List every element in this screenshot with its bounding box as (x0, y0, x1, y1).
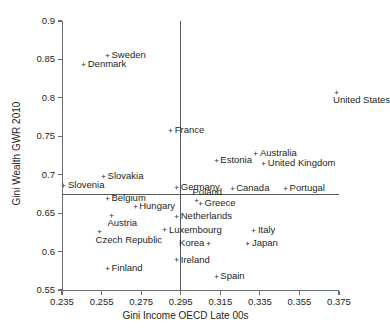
data-point-marker-icon (283, 186, 288, 191)
data-point-marker-icon (105, 266, 110, 271)
data-point-marker-icon (198, 201, 203, 206)
data-point-label: Poland (193, 187, 223, 197)
data-point-label: Hungary (139, 201, 175, 211)
data-point-label: Netherlands (181, 211, 232, 221)
data-point-marker-icon (168, 128, 173, 133)
y-tick-mark (58, 251, 62, 252)
y-tick-mark (58, 136, 62, 137)
reference-line-vertical (180, 21, 181, 291)
y-tick-mark (58, 20, 62, 21)
data-point-marker-icon (174, 257, 179, 262)
x-tick-mark (220, 291, 221, 295)
data-point-marker-icon (133, 204, 138, 209)
data-point-label: Canada (236, 183, 269, 193)
y-tick-mark (58, 97, 62, 98)
x-tick-mark (180, 291, 181, 295)
y-axis-title: Gini Wealth GWR 2010 (11, 74, 22, 234)
y-axis-line (62, 21, 63, 291)
data-point-marker-icon (245, 241, 250, 246)
data-point-label: Ireland (181, 255, 210, 265)
x-tick-mark (101, 291, 102, 295)
y-tick-label: 0.55 (15, 285, 55, 295)
data-point-label: Greece (205, 198, 236, 208)
data-point-marker-icon (253, 151, 258, 156)
data-point-label: Estonia (220, 155, 252, 165)
data-point-label: Denmark (88, 59, 127, 69)
x-tick-mark (299, 291, 300, 295)
x-tick-mark (259, 291, 260, 295)
x-tick-label: 0.335 (240, 296, 280, 307)
data-point-marker-icon (261, 161, 266, 166)
data-point-marker-icon (81, 62, 86, 67)
x-tick-label: 0.315 (200, 296, 240, 307)
data-point-label: Italy (258, 225, 275, 235)
data-point-label: Luxembourg (169, 225, 222, 235)
data-point-marker-icon (214, 274, 219, 279)
data-point-label: Portugal (290, 183, 325, 193)
data-point-label: Czech Republic (96, 235, 163, 245)
x-tick-mark (61, 291, 62, 295)
x-tick-label: 0.235 (42, 296, 82, 307)
data-point-label: Slovakia (108, 171, 144, 181)
data-point-marker-icon (230, 186, 235, 191)
x-tick-mark (141, 291, 142, 295)
data-point-label: France (175, 125, 205, 135)
data-point-label: United States (333, 95, 390, 105)
data-point-marker-icon (251, 228, 256, 233)
data-point-marker-icon (206, 241, 211, 246)
data-point-marker-icon (174, 185, 179, 190)
x-tick-label: 0.255 (82, 296, 122, 307)
data-point-marker-icon (162, 227, 167, 232)
data-point-marker-icon (174, 214, 179, 219)
x-tick-mark (338, 291, 339, 295)
y-tick-mark (58, 59, 62, 60)
x-tick-label: 0.275 (121, 296, 161, 307)
x-axis-line (62, 290, 339, 291)
x-tick-label: 0.295 (161, 296, 201, 307)
data-point-label: Korea (179, 238, 204, 248)
x-axis-title: Gini Income OECD Late 00s (0, 310, 371, 321)
data-point-label: Japan (252, 238, 278, 248)
data-point-marker-icon (105, 196, 110, 201)
x-tick-label: 0.355 (279, 296, 319, 307)
x-tick-label: 0.375 (319, 296, 359, 307)
data-point-label: Finland (112, 263, 143, 273)
data-point-label: Slovenia (68, 180, 104, 190)
data-point-marker-icon (61, 183, 66, 188)
y-tick-mark (58, 213, 62, 214)
data-point-label: United Kingdom (268, 158, 336, 168)
data-point-label: Spain (220, 271, 244, 281)
data-point-label: Austria (107, 218, 137, 228)
data-point-marker-icon (214, 158, 219, 163)
y-tick-mark (58, 174, 62, 175)
y-tick-label: 0.85 (15, 54, 55, 64)
y-tick-label: 0.6 (15, 247, 55, 257)
y-tick-label: 0.9 (15, 16, 55, 26)
